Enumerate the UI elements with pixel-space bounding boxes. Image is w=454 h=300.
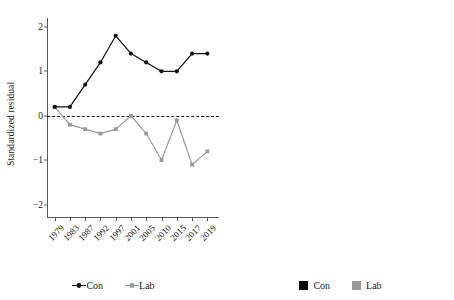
line-series-con: [55, 36, 208, 107]
data-point-con: [83, 83, 87, 87]
x-tick-mark: [100, 218, 101, 221]
data-point-con: [114, 34, 118, 38]
x-tick-mark: [55, 218, 56, 221]
con-bar-swatch-icon: [299, 281, 308, 290]
x-tick-mark: [162, 218, 163, 221]
data-point-con: [129, 51, 133, 55]
y-axis-title-left: Standardized residual: [6, 34, 18, 214]
legend-item-con-right: Con: [299, 280, 330, 291]
legend-right: Con Lab: [227, 280, 454, 291]
data-point-con: [190, 51, 194, 55]
line-series-group: [47, 18, 215, 218]
data-point-lab: [129, 114, 133, 118]
data-point-con: [68, 105, 72, 109]
data-point-lab: [83, 127, 87, 131]
panel-standardized-residual: Standardized residual 210−1−219791983198…: [0, 0, 227, 300]
x-tick-mark: [85, 218, 86, 221]
panel-vote-share-difference: Lincolnshire mean vote share minus mean …: [227, 0, 454, 300]
con-line-marker-icon: [72, 281, 81, 290]
x-tick-mark: [177, 218, 178, 221]
lab-bar-swatch-icon: [352, 281, 361, 290]
legend-label-lab-left: Lab: [139, 280, 155, 291]
legend-item-lab-right: Lab: [352, 280, 382, 291]
x-tick-mark: [131, 218, 132, 221]
data-point-con: [98, 60, 102, 64]
x-tick-mark: [116, 218, 117, 221]
lab-line-marker-icon: [125, 281, 134, 290]
plot-area-left: 210−1−2197919831987199219972001200520102…: [47, 18, 215, 218]
data-point-lab: [68, 123, 72, 127]
x-tick-mark: [192, 218, 193, 221]
legend-left: Con Lab: [0, 280, 227, 291]
legend-label-con-left: Con: [86, 280, 103, 291]
data-point-lab: [205, 149, 209, 153]
data-point-lab: [144, 132, 148, 136]
x-tick-mark: [146, 218, 147, 221]
data-point-con: [159, 69, 163, 73]
legend-item-con-left: Con: [72, 280, 103, 291]
data-point-lab: [190, 163, 194, 167]
data-point-con: [205, 51, 209, 55]
legend-item-lab-left: Lab: [125, 280, 155, 291]
data-point-lab: [114, 127, 118, 131]
x-tick-mark: [70, 218, 71, 221]
legend-label-con-right: Con: [313, 280, 330, 291]
data-point-lab: [175, 118, 179, 122]
x-tick-mark: [207, 218, 208, 221]
data-point-con: [175, 69, 179, 73]
legend-label-lab-right: Lab: [366, 280, 382, 291]
data-point-con: [144, 60, 148, 64]
x-tick-label: 2019: [199, 223, 219, 243]
data-point-con: [53, 105, 57, 109]
data-point-lab: [99, 132, 103, 136]
figure: Standardized residual 210−1−219791983198…: [0, 0, 454, 300]
data-point-lab: [160, 158, 164, 162]
